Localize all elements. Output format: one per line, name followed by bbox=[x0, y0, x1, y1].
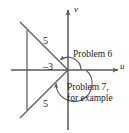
upper-ray-length-label: 5 bbox=[43, 36, 48, 46]
u-axis-label: u bbox=[120, 62, 125, 71]
v-axis-label: v bbox=[74, 5, 78, 14]
complex-plane-figure: v u 5 5 –3 Problem 6 Problem 7, for exam… bbox=[0, 0, 129, 133]
lower-ray-length-label: 5 bbox=[43, 99, 48, 109]
figure-canvas bbox=[0, 0, 129, 133]
annotation-problem-6: Problem 6 bbox=[73, 50, 112, 60]
real-axis-tick-label: –3 bbox=[43, 62, 53, 72]
annotation-problem-7-line1: Problem 7, bbox=[67, 83, 109, 93]
annotation-problem-7-line2: for example bbox=[67, 94, 113, 104]
